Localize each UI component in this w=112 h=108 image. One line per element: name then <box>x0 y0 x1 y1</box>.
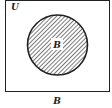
universe-label: U <box>11 2 20 12</box>
caption: B <box>52 96 61 106</box>
set-b-label: B <box>52 40 61 50</box>
venn-diagram: U B B <box>0 0 112 108</box>
